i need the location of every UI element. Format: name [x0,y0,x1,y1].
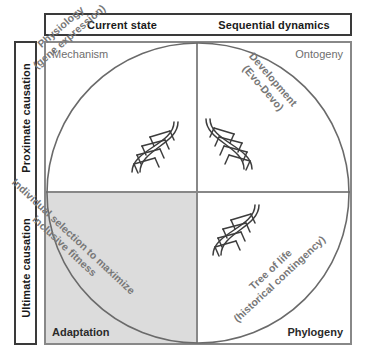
row-header-ultimate-causation-label: Ultimate causation [20,218,32,318]
row-header-proximate-causation: Proximate causation [16,43,35,193]
quadrant-phylogeny-label: Phylogeny [287,326,343,338]
tinbergen-four-questions-figure: Current state Sequential dynamics Proxim… [0,0,367,362]
quadrant-adaptation: Adaptation [46,193,198,343]
dna-helix-icon [200,113,262,175]
column-header-sequential-dynamics-label: Sequential dynamics [218,19,329,31]
column-header-sequential-dynamics: Sequential dynamics [198,15,350,34]
row-header-proximate-causation-label: Proximate causation [20,63,32,173]
quadrant-matrix: Mechanism Ontogeny Adaptation Phylogeny [44,41,352,345]
quadrant-adaptation-label: Adaptation [52,326,109,338]
quadrant-ontogeny-label: Ontogeny [295,48,343,60]
quadrant-mechanism-label: Mechanism [52,48,108,60]
dna-helix-icon [203,199,265,261]
dna-helix-icon [122,116,184,178]
